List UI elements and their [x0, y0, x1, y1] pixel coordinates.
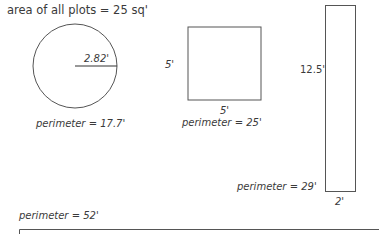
tall-rectangle-plot — [326, 6, 356, 192]
diagram-title: area of all plots = 25 sq' — [7, 5, 148, 17]
tall-rectangle-perimeter-label: perimeter = 29' — [237, 182, 317, 192]
square-perimeter-label: perimeter = 25' — [182, 118, 262, 128]
circle-perimeter-label: perimeter = 17.7' — [36, 119, 125, 129]
tall-rectangle-height-label: 12.5' — [300, 65, 325, 75]
long-rectangle-plot — [20, 230, 379, 235]
square-bottom-side-label: 5' — [220, 106, 229, 116]
square-plot — [188, 27, 261, 100]
circle-radius-label: 2.82' — [84, 54, 109, 64]
long-rectangle-perimeter-label: perimeter = 52' — [19, 211, 99, 221]
square-left-side-label: 5' — [165, 60, 174, 70]
tall-rectangle-width-label: 2' — [335, 197, 344, 207]
